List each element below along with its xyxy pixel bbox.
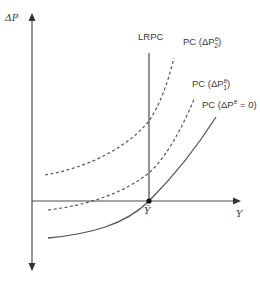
y-axis-down-arrow-icon — [29, 263, 36, 271]
x-axis-label: Y — [236, 208, 244, 219]
y-axis-label: ΔP — [4, 12, 19, 23]
pc2-label: PC (ΔPe2) — [183, 35, 221, 49]
x-axis-arrow-icon — [233, 198, 241, 205]
lrpc-label: LRPC — [138, 31, 163, 42]
pc0-label: PC (ΔPe = 0) — [202, 98, 257, 110]
natural-output-label: Ȳ — [144, 205, 152, 216]
pc0-curve — [48, 117, 216, 238]
phillips-curve-diagram: ΔP Y Ȳ LRPC PC (ΔPe2) PC (ΔPe1) PC (ΔPe … — [0, 0, 260, 286]
y-axis — [29, 13, 36, 271]
natural-output-point — [146, 198, 151, 203]
y-axis-up-arrow-icon — [29, 13, 36, 21]
pc1-curve — [48, 97, 195, 210]
pc1-label: PC (ΔPe1) — [192, 77, 230, 91]
pc2-curve — [45, 58, 174, 175]
x-axis — [32, 198, 241, 205]
